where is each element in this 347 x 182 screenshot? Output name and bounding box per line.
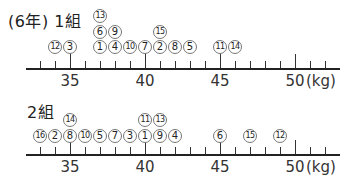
x-axis-tick	[85, 147, 86, 154]
x-axis-tick	[160, 61, 161, 68]
x-axis-label: 50	[285, 72, 304, 90]
student-dot: 2	[48, 129, 62, 143]
x-axis-line	[26, 68, 340, 70]
x-axis-tick	[295, 140, 296, 154]
student-dot: 14	[228, 40, 242, 54]
x-axis-tick	[85, 61, 86, 68]
student-dot: 3	[123, 129, 137, 143]
x-axis-tick	[280, 61, 281, 68]
x-axis-tick	[130, 147, 131, 154]
student-dot: 11	[138, 113, 152, 127]
x-axis-label: 50	[285, 158, 304, 176]
x-axis-tick	[250, 61, 251, 68]
x-axis-tick	[40, 147, 41, 154]
student-dot: 5	[183, 40, 197, 54]
x-axis-tick	[220, 54, 221, 68]
student-dot: 7	[138, 40, 152, 54]
student-dot: 2	[153, 40, 167, 54]
x-axis-label: 35	[60, 72, 79, 90]
x-axis-label: 35	[60, 158, 79, 176]
x-axis-tick	[310, 61, 311, 68]
x-axis-tick	[100, 61, 101, 68]
x-axis-tick	[310, 147, 311, 154]
x-axis-line	[26, 154, 340, 156]
x-axis-tick	[235, 61, 236, 68]
student-dot: 12	[273, 129, 287, 143]
x-axis-tick	[250, 147, 251, 154]
x-axis-tick	[325, 147, 326, 154]
student-dot: 6	[93, 25, 107, 39]
student-dot: 14	[63, 113, 77, 127]
x-axis-tick	[130, 61, 131, 68]
student-dot: 11	[213, 40, 227, 54]
x-axis-tick	[145, 54, 146, 68]
x-axis-tick	[235, 147, 236, 154]
student-dot: 10	[78, 129, 92, 143]
student-dot: 8	[63, 129, 77, 143]
x-axis-label: 40	[135, 158, 154, 176]
x-axis-label: 40	[135, 72, 154, 90]
student-dot: 12	[48, 40, 62, 54]
x-axis-tick	[175, 61, 176, 68]
student-dot: 13	[153, 113, 167, 127]
x-axis-tick	[70, 54, 71, 68]
x-axis-tick	[205, 147, 206, 154]
x-axis-tick	[280, 147, 281, 154]
x-axis-tick	[115, 147, 116, 154]
student-dot: 3	[63, 40, 77, 54]
x-axis-tick	[295, 54, 296, 68]
student-dot: 7	[108, 129, 122, 143]
x-axis-tick	[265, 147, 266, 154]
student-dot: 16	[33, 129, 47, 143]
student-dot: 9	[108, 25, 122, 39]
student-dot: 10	[123, 40, 137, 54]
x-axis-label: 45	[210, 72, 229, 90]
student-dot: 9	[153, 129, 167, 143]
x-axis-tick	[55, 61, 56, 68]
x-axis-tick	[100, 147, 101, 154]
x-axis-tick	[205, 61, 206, 68]
student-dot: 15	[243, 129, 257, 143]
x-axis-tick	[190, 147, 191, 154]
class2-title: 2組	[27, 99, 54, 123]
x-axis-tick	[190, 61, 191, 68]
student-dot: 8	[168, 40, 182, 54]
x-axis-tick	[115, 61, 116, 68]
student-dot: 4	[108, 40, 122, 54]
student-dot: 4	[168, 129, 182, 143]
student-dot: 1	[93, 40, 107, 54]
x-axis-tick	[160, 147, 161, 154]
class1-title: (6年) 1組	[8, 8, 81, 32]
x-axis-label: 45	[210, 158, 229, 176]
student-dot: 5	[93, 129, 107, 143]
student-dot: 13	[93, 9, 107, 23]
student-dot: 15	[153, 25, 167, 39]
x-axis-tick	[265, 61, 266, 68]
x-axis-unit: (kg)	[306, 72, 336, 90]
x-axis-tick	[325, 61, 326, 68]
student-dot: 1	[138, 129, 152, 143]
x-axis-tick	[40, 61, 41, 68]
x-axis-tick	[175, 147, 176, 154]
x-axis-tick	[55, 147, 56, 154]
x-axis-unit: (kg)	[306, 158, 336, 176]
student-dot: 6	[213, 129, 227, 143]
